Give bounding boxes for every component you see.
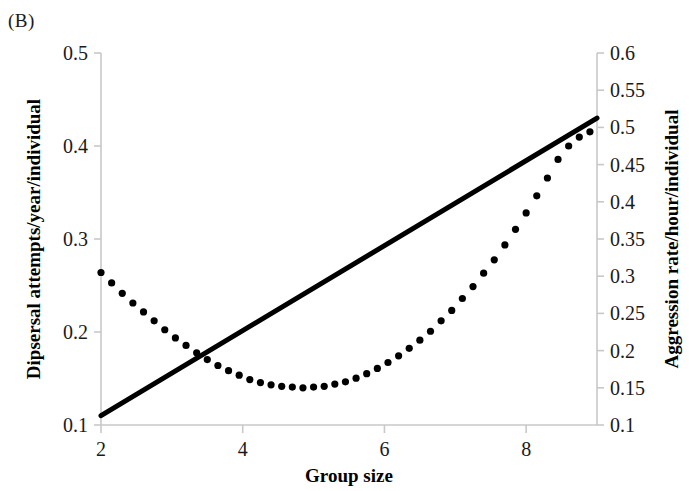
series-dot <box>427 328 434 335</box>
series-dot <box>289 383 296 390</box>
series-dot <box>331 380 338 387</box>
right-axis-tick-label: 0.5 <box>610 116 635 138</box>
series-dot <box>395 352 402 359</box>
right-axis-tick-label: 0.15 <box>610 377 645 399</box>
series-dot <box>140 308 147 315</box>
series-dot <box>97 269 104 276</box>
series-line-solid <box>101 118 597 416</box>
series-dot <box>501 241 508 248</box>
left-axis-tick-label: 0.4 <box>63 135 88 157</box>
left-axis-tick-label: 0.3 <box>63 228 88 250</box>
x-axis-title: Group size <box>305 465 393 486</box>
series-dot <box>416 337 423 344</box>
left-axis-tick-label: 0.5 <box>63 42 88 64</box>
series-dot <box>182 342 189 349</box>
series-dot <box>151 317 158 324</box>
series-dot <box>236 372 243 379</box>
series-dot <box>214 362 221 369</box>
right-axis-tick-label: 0.3 <box>610 265 635 287</box>
series-dot <box>299 384 306 391</box>
series-dot <box>469 283 476 290</box>
series-dot <box>406 345 413 352</box>
series-dot <box>448 307 455 314</box>
series-dot <box>554 156 561 163</box>
series-dot <box>352 375 359 382</box>
series-dot <box>523 209 530 216</box>
left-axis-title: Dipsersal attempts/year/individual <box>23 99 44 379</box>
series-dot <box>533 192 540 199</box>
series-dot <box>438 317 445 324</box>
x-axis-tick-label: 8 <box>521 438 531 460</box>
left-axis-tick-label: 0.2 <box>63 321 88 343</box>
x-axis-tick-label: 6 <box>379 438 389 460</box>
right-axis-tick-label: 0.4 <box>610 191 635 213</box>
series-dot <box>342 378 349 385</box>
series-dot <box>374 365 381 372</box>
series-dot <box>544 174 551 181</box>
series-dot <box>480 270 487 277</box>
right-axis-title: Aggression rate/hour/individual <box>661 110 682 369</box>
chart-canvas: 0.10.20.30.40.50.10.150.20.250.30.350.40… <box>0 0 689 491</box>
series-dot <box>586 128 593 135</box>
x-axis-tick-label: 2 <box>96 438 106 460</box>
left-axis-tick-label: 0.1 <box>63 414 88 436</box>
right-axis-tick-label: 0.35 <box>610 228 645 250</box>
series-dot <box>267 381 274 388</box>
right-axis-tick-label: 0.2 <box>610 340 635 362</box>
series-dot <box>512 226 519 233</box>
series-dot <box>246 376 253 383</box>
series-dot <box>161 326 168 333</box>
series-dot <box>459 295 466 302</box>
series-dot <box>576 133 583 140</box>
series-dot <box>491 256 498 263</box>
right-axis-tick-label: 0.55 <box>610 79 645 101</box>
right-axis-tick-label: 0.1 <box>610 414 635 436</box>
series-dot <box>108 279 115 286</box>
figure-panel-b: (B) 0.10.20.30.40.50.10.150.20.250.30.35… <box>0 0 689 491</box>
series-dot <box>193 349 200 356</box>
series-dot <box>129 299 136 306</box>
series-dot <box>310 383 317 390</box>
series-dot <box>172 334 179 341</box>
series-dot <box>565 142 572 149</box>
series-dot <box>225 367 232 374</box>
series-dot <box>257 379 264 386</box>
right-axis-tick-label: 0.25 <box>610 302 645 324</box>
series-dot <box>278 383 285 390</box>
series-dot <box>204 356 211 363</box>
series-dot <box>384 359 391 366</box>
series-group <box>97 118 597 416</box>
x-axis-tick-label: 4 <box>238 438 248 460</box>
right-axis-tick-label: 0.6 <box>610 42 635 64</box>
series-dot <box>321 383 328 390</box>
series-dot <box>119 290 126 297</box>
series-dot <box>363 370 370 377</box>
right-axis-tick-label: 0.45 <box>610 154 645 176</box>
